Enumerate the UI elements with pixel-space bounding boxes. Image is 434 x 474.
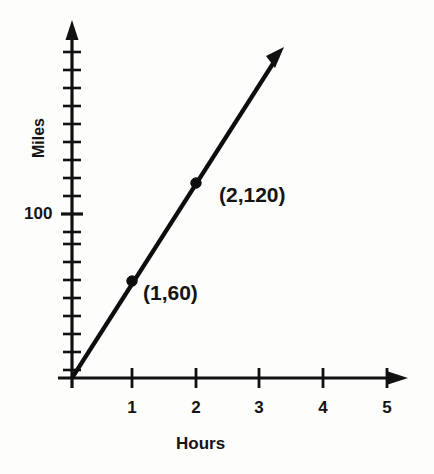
data-point-2-120 xyxy=(191,178,201,188)
annotation-point-2-120: (2,120) xyxy=(219,183,286,207)
data-line-arrow-icon xyxy=(266,47,284,68)
annotation-point-1-60: (1,60) xyxy=(143,281,198,305)
y-axis-label: Miles xyxy=(30,78,48,118)
x-tick-label-5: 5 xyxy=(377,398,397,418)
y-axis-arrow-icon xyxy=(66,20,79,40)
x-tick-label-4: 4 xyxy=(313,398,333,418)
x-axis-arrow-icon xyxy=(388,372,408,385)
data-point-1-60 xyxy=(127,276,137,286)
y-tick-label-100: 100 xyxy=(24,204,52,224)
x-axis-group xyxy=(58,368,408,388)
x-tick-label-3: 3 xyxy=(249,398,269,418)
data-line-segment xyxy=(72,62,274,378)
x-tick-label-2: 2 xyxy=(186,398,206,418)
x-axis-label: Hours xyxy=(176,434,225,454)
x-tick-label-1: 1 xyxy=(122,398,142,418)
y-axis-label-text: Miles xyxy=(30,118,48,158)
line-graph-figure: Miles 100 1 2 3 4 5 Hours (2,120) (1,60) xyxy=(0,0,434,474)
data-series-distance xyxy=(72,47,284,378)
plot-canvas xyxy=(0,0,434,474)
y-axis-group xyxy=(61,20,83,388)
